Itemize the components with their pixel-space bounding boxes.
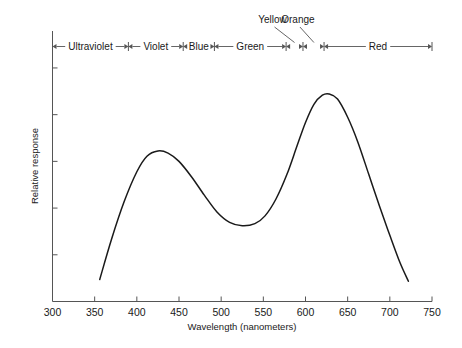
x-tick-label: 650 bbox=[339, 307, 357, 318]
band-arrowhead bbox=[179, 44, 183, 49]
band-arrowhead bbox=[320, 44, 324, 49]
band-arrowhead bbox=[324, 44, 328, 49]
band-label-red: Red bbox=[369, 42, 387, 52]
band-arrowhead bbox=[183, 44, 187, 49]
band-arrowhead bbox=[124, 44, 128, 49]
callout-leader-lines bbox=[275, 27, 314, 43]
callout-leader-yellow bbox=[275, 27, 295, 43]
response-curve bbox=[100, 94, 409, 282]
x-axis-ticks bbox=[53, 297, 433, 302]
band-arrowhead bbox=[214, 44, 218, 49]
spectral-response-chart: UltravioletVioletBlueGreenYellowOrangeRe… bbox=[0, 0, 462, 348]
y-axis-ticks bbox=[53, 68, 58, 255]
x-tick-label: 600 bbox=[297, 307, 315, 318]
band-arrowhead bbox=[428, 44, 432, 49]
band-label-green: Green bbox=[236, 42, 264, 52]
x-tick-label: 400 bbox=[128, 307, 146, 318]
x-tick-label: 300 bbox=[44, 307, 62, 318]
band-label-violet: Violet bbox=[143, 42, 168, 52]
x-tick-label: 450 bbox=[170, 307, 188, 318]
x-tick-label: 350 bbox=[86, 307, 104, 318]
band-arrowhead bbox=[303, 44, 307, 49]
axes-frame bbox=[53, 31, 433, 302]
band-arrowhead bbox=[299, 44, 303, 49]
band-label-ultraviolet: Ultraviolet bbox=[68, 42, 112, 52]
band-label-blue: Blue bbox=[189, 42, 209, 52]
x-tick-label: 750 bbox=[423, 307, 441, 318]
band-arrowhead bbox=[128, 44, 132, 49]
callout-label-orange: Orange bbox=[281, 15, 314, 25]
y-axis-title: Relative response bbox=[30, 128, 40, 204]
callout-leader-orange bbox=[300, 27, 314, 43]
x-tick-label: 700 bbox=[381, 307, 399, 318]
band-arrowhead bbox=[282, 44, 286, 49]
band-arrowhead bbox=[53, 44, 57, 49]
x-axis-title: Wavelength (nanometers) bbox=[188, 322, 297, 332]
band-arrowhead bbox=[210, 44, 214, 49]
x-tick-label: 550 bbox=[255, 307, 273, 318]
x-tick-label: 500 bbox=[212, 307, 230, 318]
chart-canvas bbox=[0, 0, 462, 348]
band-arrowhead bbox=[286, 44, 290, 49]
